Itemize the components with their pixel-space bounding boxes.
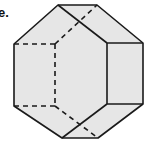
outline-face bbox=[14, 5, 143, 138]
octagonal-prism-diagram bbox=[0, 0, 144, 143]
